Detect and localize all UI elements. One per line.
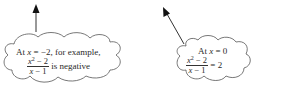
left-callout-suffix: is negative <box>49 61 90 71</box>
right-callout-line2: x2 − 2 x − 1 = 2 <box>186 56 222 75</box>
right-arrow-shaft <box>167 14 184 44</box>
left-callout-line2: x2 − 2 x − 1 is negative <box>27 57 90 76</box>
left-num-rest: − 2 <box>35 56 48 66</box>
right-callout-suffix: = 2 <box>208 60 222 70</box>
right-fraction-denominator: x − 1 <box>188 66 207 75</box>
right-fraction: x2 − 2 x − 1 <box>186 56 208 75</box>
right-callout-rest: = 0 <box>213 46 227 56</box>
left-fraction: x2 − 2 x − 1 <box>27 57 49 76</box>
right-num-rest: − 2 <box>194 55 207 65</box>
left-arrow-head <box>33 4 40 13</box>
right-den-rest: − 1 <box>192 65 205 75</box>
left-den-rest: − 1 <box>33 66 46 76</box>
left-callout-prefix: At <box>16 47 27 57</box>
right-arrow-head <box>163 7 170 17</box>
left-fraction-denominator: x − 1 <box>29 67 48 76</box>
